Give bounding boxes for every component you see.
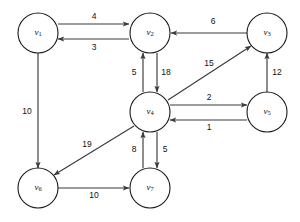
graph-diagram: v1v2v3v4v5v6v7 43651815122110198510 [0,0,300,222]
edge-weight-v1-to-v2: 4 [92,11,97,21]
edge-weight-v2-to-v4: 18 [161,67,171,77]
node-label-sub-v3: 3 [267,31,270,38]
edge-weight-v3-to-v2: 6 [211,16,216,26]
edge-weight-v4-to-v3: 15 [204,58,214,68]
node-label-sub-v5: 5 [267,110,270,117]
graph-canvas: v1v2v3v4v5v6v7 43651815122110198510 [0,0,300,222]
node-label-sub-v2: 2 [150,31,153,38]
node-v4[interactable]: v4 [130,92,170,132]
node-v5[interactable]: v5 [247,92,287,132]
edge-weight-v5-to-v4: 1 [207,122,212,132]
edge-weight-v2-to-v1: 3 [92,42,97,52]
edge-weight-v4-to-v7: 5 [163,144,168,154]
edge-weight-v4-to-v2: 5 [132,67,137,77]
node-v7[interactable]: v7 [130,168,170,208]
nodes-layer: v1v2v3v4v5v6v7 [18,13,287,208]
edge-weight-v4-to-v5: 2 [207,92,212,102]
edge-weight-v1-to-v6: 10 [22,106,32,116]
edge-weight-v6-to-v7: 10 [89,190,99,200]
node-label-sub-v1: 1 [38,31,41,38]
edge-v4-to-v6 [54,126,134,175]
edge-weight-v7-to-v4: 8 [132,144,137,154]
node-v6[interactable]: v6 [18,168,58,208]
node-v3[interactable]: v3 [247,13,287,53]
edge-weight-v5-to-v3: 12 [272,67,282,77]
node-v1[interactable]: v1 [18,13,58,53]
node-v2[interactable]: v2 [130,13,170,53]
edge-weight-v4-to-v6: 19 [82,139,92,149]
